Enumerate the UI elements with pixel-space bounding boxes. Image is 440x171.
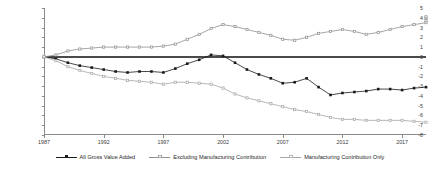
- data-point: [401, 89, 404, 92]
- data-point: [306, 110, 308, 112]
- data-point: [389, 28, 391, 30]
- data-point: [150, 70, 153, 73]
- data-point: [306, 36, 308, 38]
- data-point: [198, 58, 201, 61]
- data-point: [90, 66, 93, 69]
- x-tick-label: 1987: [38, 139, 50, 145]
- data-point: [91, 72, 93, 74]
- data-point: [270, 34, 272, 36]
- data-point: [43, 56, 45, 58]
- chart-legend: All Gross Value AddedExcluding Manufactu…: [0, 150, 440, 164]
- data-point: [55, 60, 57, 62]
- data-point: [425, 121, 427, 123]
- data-point: [353, 91, 356, 94]
- data-point: [102, 68, 105, 71]
- data-point: [222, 24, 224, 26]
- data-point: [365, 90, 368, 93]
- data-point: [425, 20, 427, 22]
- x-tick-label: 2017: [396, 139, 408, 145]
- data-point: [162, 71, 165, 74]
- data-point: [115, 46, 117, 48]
- legend-label: All Gross Value Added: [80, 154, 136, 160]
- legend-item-3[interactable]: Manufacturing Contribution Only: [280, 154, 384, 161]
- x-tick-mark: [104, 135, 105, 138]
- x-tick-label: 1997: [157, 139, 169, 145]
- data-point: [210, 83, 212, 85]
- data-point: [341, 118, 343, 120]
- data-point: [138, 46, 140, 48]
- data-point: [234, 93, 236, 95]
- data-point: [294, 109, 296, 111]
- data-point: [162, 83, 164, 85]
- x-tick-mark: [342, 135, 343, 138]
- data-point: [79, 64, 82, 67]
- data-point: [234, 61, 237, 64]
- data-point: [317, 32, 319, 34]
- chart-figure: Cumulative Labor Share Change (%) 543210…: [0, 0, 440, 171]
- data-point: [377, 119, 379, 121]
- data-point: [413, 120, 415, 122]
- data-point: [365, 33, 367, 35]
- legend-marker-icon: [56, 154, 77, 161]
- data-point: [55, 54, 57, 56]
- series-line: [44, 57, 426, 122]
- legend-label: Manufacturing Contribution Only: [304, 154, 384, 160]
- data-point: [413, 87, 416, 90]
- data-point: [329, 116, 331, 118]
- data-point: [150, 81, 152, 83]
- legend-item-2[interactable]: Excluding Manufacturing Contribution: [149, 154, 266, 161]
- legend-item-1[interactable]: All Gross Value Added: [56, 154, 136, 161]
- data-point: [246, 97, 248, 99]
- data-point: [103, 46, 105, 48]
- data-point: [365, 119, 367, 121]
- data-point: [67, 50, 69, 52]
- data-point: [126, 71, 129, 74]
- series-line: [44, 55, 426, 95]
- data-point: [377, 31, 379, 33]
- data-point: [186, 38, 188, 40]
- data-point: [258, 73, 261, 76]
- y-axis-title: Cumulative Labor Share Change (%): [10, 0, 20, 6]
- data-point: [282, 38, 284, 40]
- data-point: [79, 69, 81, 71]
- data-point: [258, 100, 260, 102]
- x-tick-mark: [163, 135, 164, 138]
- data-point: [174, 43, 176, 45]
- data-point: [138, 80, 140, 82]
- data-point: [126, 79, 128, 81]
- data-point: [246, 68, 249, 71]
- data-point: [115, 77, 117, 79]
- data-point: [103, 75, 105, 77]
- legend-marker-icon: [280, 154, 301, 161]
- data-point: [150, 46, 152, 48]
- legend-label: Excluding Manufacturing Contribution: [173, 154, 266, 160]
- data-point: [162, 45, 164, 47]
- data-point: [341, 92, 344, 95]
- x-tick-label: 2002: [217, 139, 229, 145]
- data-point: [186, 81, 188, 83]
- data-point: [222, 55, 225, 58]
- data-point: [294, 39, 296, 41]
- series-plot: [44, 8, 426, 135]
- series-2: [43, 16, 427, 58]
- x-tick-mark: [402, 135, 403, 138]
- data-point: [425, 86, 428, 89]
- x-tick-label: 2012: [337, 139, 349, 145]
- data-point: [258, 31, 260, 33]
- data-point: [341, 28, 343, 30]
- data-point: [282, 106, 284, 108]
- data-point: [174, 81, 176, 83]
- x-tick-mark: [223, 135, 224, 138]
- data-point: [413, 24, 415, 26]
- data-point: [67, 66, 69, 68]
- data-point: [198, 82, 200, 84]
- x-tick-label: 2007: [277, 139, 289, 145]
- data-point: [210, 27, 212, 29]
- data-point: [270, 77, 273, 80]
- series-3: [43, 56, 427, 124]
- data-point: [317, 113, 319, 115]
- data-point: [270, 103, 272, 105]
- data-point: [91, 47, 93, 49]
- data-point: [425, 16, 427, 18]
- data-point: [293, 81, 296, 84]
